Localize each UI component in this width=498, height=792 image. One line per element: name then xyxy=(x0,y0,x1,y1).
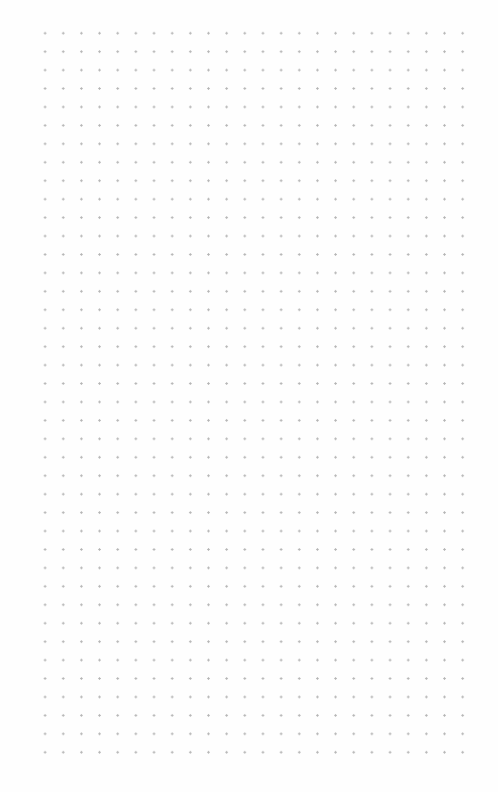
dot-grid-page xyxy=(0,0,498,792)
dot-grid xyxy=(36,24,476,768)
